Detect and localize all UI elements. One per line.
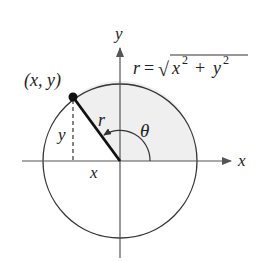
formula: r = √ x 2 + y 2 xyxy=(133,53,248,80)
point-label: (x, y) xyxy=(24,70,61,91)
x-axis-label: x xyxy=(237,151,246,170)
svg-text:√: √ xyxy=(158,58,169,80)
svg-text:x: x xyxy=(171,58,180,78)
svg-text:=: = xyxy=(144,58,154,78)
radius-label: r xyxy=(98,110,106,130)
horizontal-label: x xyxy=(89,163,98,182)
point-marker xyxy=(69,93,78,102)
y-axis-label: y xyxy=(113,24,123,43)
svg-text:2: 2 xyxy=(223,53,229,67)
svg-text:y: y xyxy=(211,58,221,78)
svg-text:r: r xyxy=(133,58,141,78)
polar-diagram: y x (x, y) r y x θ r = √ x 2 + y 2 xyxy=(0,0,262,261)
theta-label: θ xyxy=(140,120,149,141)
svg-text:2: 2 xyxy=(182,53,188,67)
vertical-label: y xyxy=(56,125,66,144)
svg-text:+: + xyxy=(195,58,205,78)
